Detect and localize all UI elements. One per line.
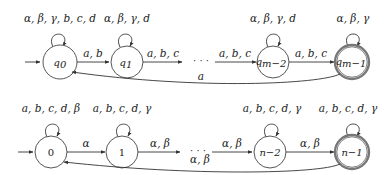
state-qm-2: qm−2 α, β, γ, d [250,12,296,78]
automata-diagram: q0 α, β, γ, b, c, d a, b q1 α, β, γ, d a… [0,0,388,175]
transition-label-n1-0: α, β [190,153,210,165]
self-loop-qm-2 [266,34,279,47]
transition-label-0-1: α [82,137,89,149]
self-loop-label-qm-2: α, β, γ, d [250,12,296,24]
state-0: 0 a, b, c, d, β [22,102,80,168]
svg-text:n−2: n−2 [259,147,280,158]
self-loop-label-q1: α, β, γ, d [104,12,150,24]
svg-text:0: 0 [48,147,54,158]
self-loop-label-1: a, b, c, d, γ [93,102,152,114]
svg-text:n−1: n−1 [341,147,362,158]
automaton-bottom: 0 a, b, c, d, β α 1 a, b, c, d, γ α, β ·… [18,102,378,172]
transition-label-q1-ellipsis: a, b, c [147,47,179,59]
transition-label-qm1-q0: a [198,70,204,82]
ellipsis-top: · · · [193,55,209,66]
svg-text:1: 1 [119,147,125,158]
self-loop-label-n-1: a, b, c, d, γ [319,102,378,114]
transition-label-q0-q1: a, b [83,47,103,59]
self-loop-1 [116,124,129,137]
self-loop-n-2 [264,124,277,137]
transition-qm1-q0 [72,72,340,84]
self-loop-q1 [118,34,131,47]
self-loop-label-n-2: a, b, c, d, γ [243,102,302,114]
self-loop-label-q0: α, β, γ, b, c, d [24,12,96,24]
transition-label-ellipsis-qm2: a, b, c [219,47,251,59]
state-q0: q0 α, β, γ, b, c, d [24,12,96,79]
state-1: 1 a, b, c, d, γ [93,102,152,168]
state-q1: q1 α, β, γ, d [104,12,150,78]
transition-label-qm2-qm1: a, b, c [295,47,327,59]
transition-label-1-ellipsis: α, β [150,137,170,149]
self-loop-label-0: a, b, c, d, β [22,102,80,114]
automaton-top: q0 α, β, γ, b, c, d a, b q1 α, β, γ, d a… [24,12,370,84]
transition-label-n2-n1: α, β [300,137,320,149]
self-loop-0 [45,124,58,137]
self-loop-label-qm-1: α, β, γ [337,12,371,24]
state-n-1-accepting: n−1 a, b, c, d, γ [319,102,378,169]
transition-label-ellipsis-n2: α, β [222,137,242,149]
state-qm-1-accepting: qm−1 α, β, γ [335,12,370,79]
state-n-2: n−2 a, b, c, d, γ [243,102,302,168]
